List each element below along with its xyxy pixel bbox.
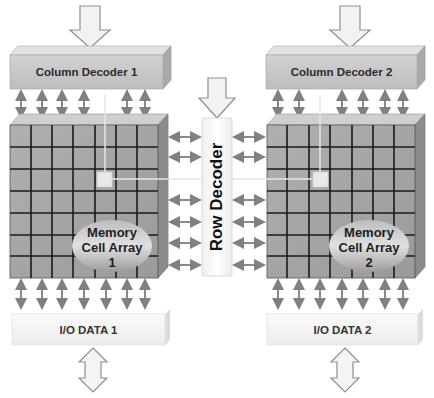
io-data-1-label: I/O DATA 1 — [12, 314, 165, 345]
memory-array-1-line1: Memory — [87, 225, 137, 240]
memory-array-1-line2: Cell Array — [82, 240, 143, 255]
input-arrow-icon-right — [330, 6, 370, 48]
io-output-arrow-icon-2 — [331, 348, 359, 392]
memory-array-2-line1: Memory — [344, 225, 394, 240]
memory-array-2-line3: 2 — [365, 255, 372, 270]
memory-array-2-line2: Cell Array — [339, 240, 400, 255]
io-output-arrow-icon-1 — [79, 348, 107, 392]
memory-array-1-label: Memory Cell Array 1 — [72, 222, 152, 272]
row-decoder-label: Row Decoder — [203, 118, 231, 276]
selected-cell-2 — [313, 172, 328, 187]
column-bus-arrows-1 — [21, 95, 145, 113]
row-bus-arrows-left — [174, 137, 196, 265]
input-arrow-icon-left — [70, 6, 110, 48]
memory-array-1-line3: 1 — [108, 255, 115, 270]
selected-cell-1 — [97, 172, 112, 187]
column-decoder-1-label: Column Decoder 1 — [10, 55, 163, 89]
io-data-2-label: I/O DATA 2 — [267, 314, 418, 345]
io-bus-arrows-2 — [278, 284, 403, 304]
column-bus-arrows-2 — [278, 95, 403, 113]
row-bus-arrows-right — [238, 137, 260, 265]
memory-array-2-label: Memory Cell Array 2 — [329, 222, 409, 272]
io-bus-arrows-1 — [21, 284, 145, 304]
row-input-arrow-icon — [199, 78, 235, 118]
column-decoder-2-label: Column Decoder 2 — [266, 55, 417, 89]
